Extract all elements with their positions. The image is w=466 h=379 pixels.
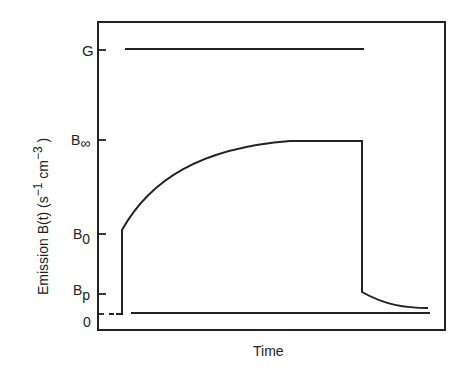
y-tick-label-G: G bbox=[82, 42, 94, 59]
emission-chart: G B∞ B0 Bp 0 Emission B(t) (s−1 cm−3 ) T… bbox=[0, 0, 466, 379]
y-axis-label: Emission B(t) (s−1 cm−3 ) bbox=[31, 138, 51, 295]
y-tick-label-B-inf: B∞ bbox=[71, 132, 90, 151]
y-ticks bbox=[98, 50, 106, 314]
y-tick-label-Bp: Bp bbox=[73, 282, 90, 303]
plot-frame bbox=[98, 22, 445, 330]
emission-curve bbox=[109, 141, 428, 314]
y-tick-label-B0: B0 bbox=[73, 226, 90, 247]
y-tick-label-zero: 0 bbox=[83, 314, 91, 330]
x-axis-label: Time bbox=[253, 343, 284, 359]
